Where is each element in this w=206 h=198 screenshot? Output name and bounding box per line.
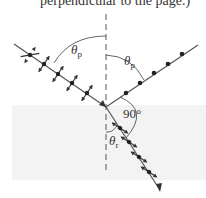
incident-ray <box>14 44 106 107</box>
brewster-diagram: θp θp 90° θr <box>0 0 206 198</box>
reflected-angle-label: θp <box>124 53 135 70</box>
refracted-direction-arrow <box>156 183 162 192</box>
incident-angle-label: θp <box>71 42 82 59</box>
right-angle-label: 90° <box>123 106 141 121</box>
